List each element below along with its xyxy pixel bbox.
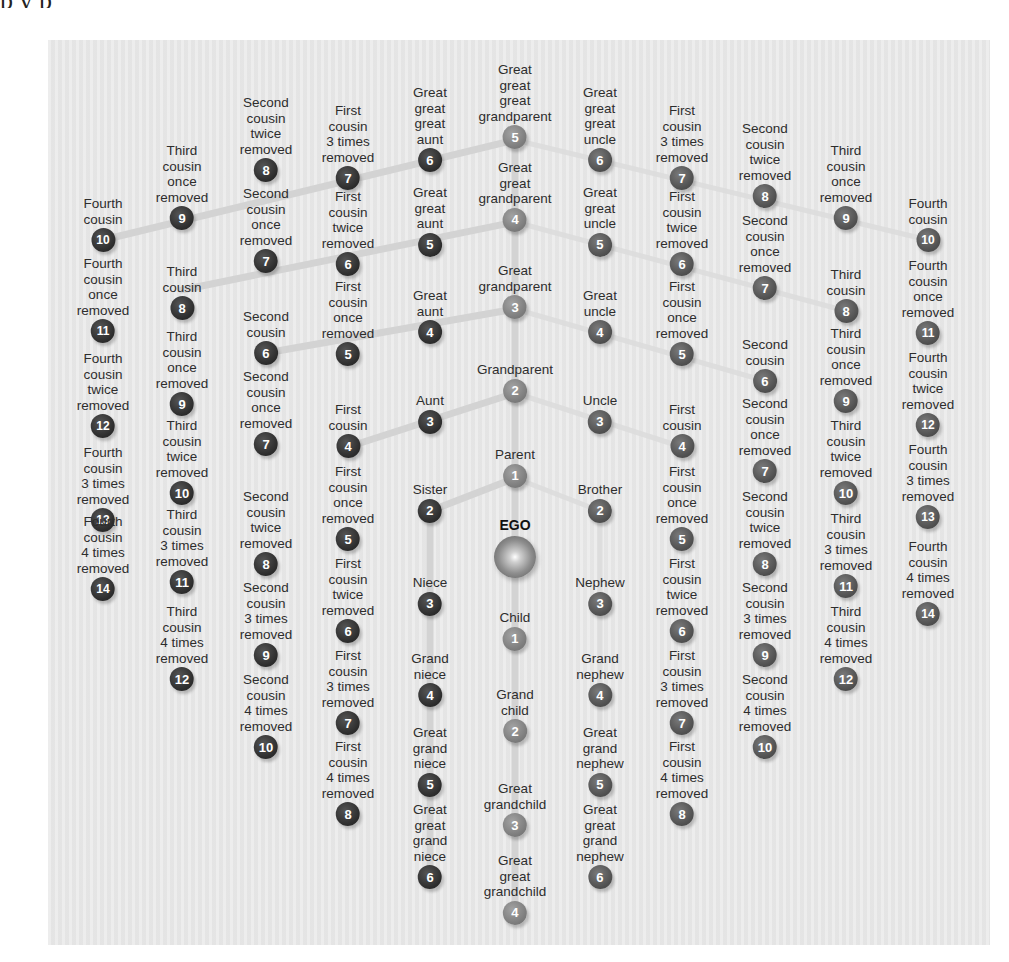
node-second-cousin-once-removed: Second cousin once removed 7 bbox=[240, 369, 293, 456]
degree-badge: 8 bbox=[834, 299, 858, 323]
node-third-cousin-once-removed: Third cousin once removed 9 bbox=[820, 326, 873, 413]
degree-badge: 11 bbox=[834, 574, 858, 598]
node-label: First cousin once removed bbox=[656, 279, 709, 341]
node-first-cousin-3x-removed: First cousin 3 times removed 7 bbox=[322, 648, 375, 735]
node-first-cousin-4x-removed: First cousin 4 times removed 8 bbox=[656, 739, 709, 826]
node-second-cousin-3x-removed: Second cousin 3 times removed 9 bbox=[240, 580, 293, 667]
degree-badge: 6 bbox=[588, 865, 612, 889]
degree-badge: 4 bbox=[588, 683, 612, 707]
node-third-cousin-4x-removed: Third cousin 4 times removed 12 bbox=[156, 604, 209, 691]
degree-badge: 1 bbox=[503, 464, 527, 488]
degree-badge: 12 bbox=[170, 667, 194, 691]
degree-badge: 12 bbox=[834, 667, 858, 691]
degree-badge: 6 bbox=[336, 619, 360, 643]
degree-badge: 10 bbox=[753, 735, 777, 759]
node-label: Second cousin once removed bbox=[240, 186, 293, 248]
node-label: First cousin 3 times removed bbox=[322, 648, 375, 710]
node-great-great-grand-nephew: Great great grand nephew 6 bbox=[576, 802, 623, 889]
degree-badge: 12 bbox=[91, 414, 115, 438]
node-fourth-cousin-once-removed: Fourth cousin once removed 11 bbox=[77, 256, 130, 343]
node-label: Uncle bbox=[583, 393, 618, 409]
ego-sphere-icon bbox=[494, 536, 536, 578]
degree-badge: 11 bbox=[91, 319, 115, 343]
node-label: Great great grand nephew bbox=[576, 802, 623, 864]
node-label: Grandparent bbox=[477, 362, 553, 378]
node-uncle: Uncle 3 bbox=[583, 393, 618, 434]
degree-badge: 4 bbox=[418, 683, 442, 707]
degree-badge: 2 bbox=[503, 379, 527, 403]
node-great-great-grandparent: Great great grandparent 4 bbox=[479, 160, 552, 232]
degree-badge: 9 bbox=[254, 643, 278, 667]
degree-badge: 8 bbox=[336, 802, 360, 826]
node-label: Second cousin bbox=[243, 309, 289, 340]
node-second-cousin: Second cousin 6 bbox=[742, 337, 788, 393]
degree-badge: 5 bbox=[418, 773, 442, 797]
node-label: Fourth cousin 4 times removed bbox=[902, 539, 955, 601]
degree-badge: 5 bbox=[588, 233, 612, 257]
degree-badge: 8 bbox=[254, 552, 278, 576]
node-label: Great uncle bbox=[583, 288, 617, 319]
degree-badge: 3 bbox=[503, 813, 527, 837]
node-label: First cousin 4 times removed bbox=[322, 739, 375, 801]
degree-badge: 5 bbox=[670, 527, 694, 551]
node-nephew: Nephew 3 bbox=[575, 575, 625, 616]
node-label: Third cousin once removed bbox=[820, 326, 873, 388]
degree-badge: 5 bbox=[503, 125, 527, 149]
node-label: Great great great uncle bbox=[583, 85, 617, 147]
node-third-cousin-once-removed: Third cousin once removed 9 bbox=[156, 143, 209, 230]
degree-badge: 10 bbox=[170, 481, 194, 505]
node-third-cousin-4x-removed: Third cousin 4 times removed 12 bbox=[820, 604, 873, 691]
degree-badge: 7 bbox=[336, 711, 360, 735]
node-first-cousin-twice-removed: First cousin twice removed 6 bbox=[322, 189, 375, 276]
node-label: Third cousin twice removed bbox=[820, 418, 873, 480]
node-first-cousin-once-removed: First cousin once removed 5 bbox=[656, 464, 709, 551]
degree-badge: 8 bbox=[254, 158, 278, 182]
node-first-cousin: First cousin 4 bbox=[662, 402, 701, 458]
node-label: Second cousin once removed bbox=[739, 396, 792, 458]
node-third-cousin: Third cousin 8 bbox=[826, 267, 865, 323]
node-first-cousin-once-removed: First cousin once removed 5 bbox=[322, 279, 375, 366]
node-label: Second cousin once removed bbox=[240, 369, 293, 431]
degree-badge: 10 bbox=[916, 228, 940, 252]
node-label: Niece bbox=[413, 575, 448, 591]
node-second-cousin-4x-removed: Second cousin 4 times removed 10 bbox=[739, 672, 792, 759]
node-label: Fourth cousin once removed bbox=[77, 256, 130, 318]
degree-badge: 4 bbox=[503, 901, 527, 925]
degree-badge: 9 bbox=[834, 389, 858, 413]
degree-badge: 6 bbox=[336, 252, 360, 276]
node-grand-nephew: Grand nephew 4 bbox=[576, 651, 623, 707]
degree-badge: 6 bbox=[753, 369, 777, 393]
node-label: Third cousin twice removed bbox=[156, 418, 209, 480]
node-third-cousin-twice-removed: Third cousin twice removed 10 bbox=[820, 418, 873, 505]
node-label: Third cousin bbox=[162, 264, 201, 295]
node-third-cousin-3x-removed: Third cousin 3 times removed 11 bbox=[156, 507, 209, 594]
degree-badge: 1 bbox=[503, 627, 527, 651]
degree-badge: 6 bbox=[418, 865, 442, 889]
node-label: Grand niece bbox=[411, 651, 449, 682]
node-great-grandparent: Great grandparent 3 bbox=[479, 263, 552, 319]
node-great-great-aunt: Great great aunt 5 bbox=[413, 185, 447, 257]
node-first-cousin-3x-removed: First cousin 3 times removed 7 bbox=[322, 103, 375, 190]
node-label: Great great uncle bbox=[583, 185, 617, 232]
node-label: Fourth cousin bbox=[908, 196, 947, 227]
node-label: Third cousin once removed bbox=[156, 329, 209, 391]
node-label: First cousin bbox=[328, 402, 367, 433]
node-label: Fourth cousin 3 times removed bbox=[77, 445, 130, 507]
node-great-great-grand-niece: Great great grand niece 6 bbox=[413, 802, 448, 889]
degree-badge: 4 bbox=[336, 434, 360, 458]
node-second-cousin-once-removed: Second cousin once removed 7 bbox=[240, 186, 293, 273]
node-second-cousin-twice-removed: Second cousin twice removed 8 bbox=[739, 489, 792, 576]
degree-badge: 13 bbox=[916, 505, 940, 529]
degree-badge: 4 bbox=[588, 320, 612, 344]
node-great-uncle: Great uncle 4 bbox=[583, 288, 617, 344]
degree-badge: 9 bbox=[170, 206, 194, 230]
node-label: Second cousin 3 times removed bbox=[240, 580, 293, 642]
node-label: Great grandchild bbox=[484, 781, 546, 812]
node-label: Third cousin once removed bbox=[820, 143, 873, 205]
degree-badge: 9 bbox=[753, 643, 777, 667]
degree-badge: 6 bbox=[588, 148, 612, 172]
node-label: Great great great aunt bbox=[413, 85, 447, 147]
node-fourth-cousin-4x-removed: Fourth cousin 4 times removed 14 bbox=[902, 539, 955, 626]
node-second-cousin-once-removed: Second cousin once removed 7 bbox=[739, 396, 792, 483]
degree-badge: 5 bbox=[418, 233, 442, 257]
